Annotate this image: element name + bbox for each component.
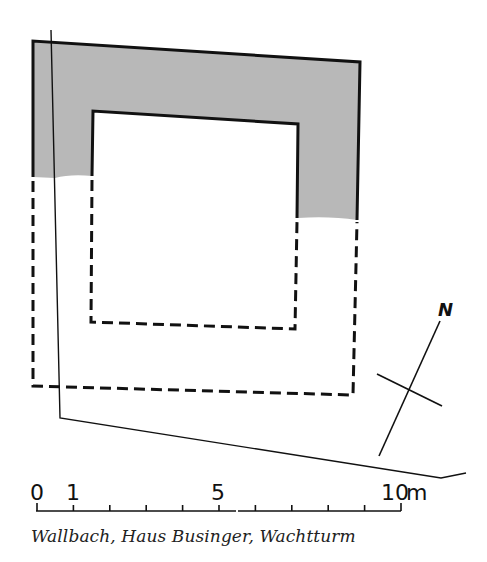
inner-wall-solid (92, 111, 298, 218)
inner-wall-dashed (91, 180, 297, 329)
scale-label-5: 5 (211, 480, 225, 505)
scale-label-unit: m (406, 480, 427, 505)
figure-caption: Wallbach, Haus Businger, Wachtturm (31, 526, 356, 546)
north-arrow: N (377, 299, 453, 456)
north-arrow-axis (379, 321, 440, 456)
north-arrow-crossbar (377, 374, 442, 406)
scale-label-1: 1 (66, 480, 80, 505)
scale-label-0: 0 (30, 480, 44, 505)
scale-label-10: 10 (381, 480, 409, 505)
scale-bar: 0 1 5 10 m (30, 480, 427, 511)
ground-plan: N 0 1 5 10 m (0, 0, 487, 562)
preserved-wall-shading (33, 41, 360, 220)
north-label: N (438, 299, 453, 320)
